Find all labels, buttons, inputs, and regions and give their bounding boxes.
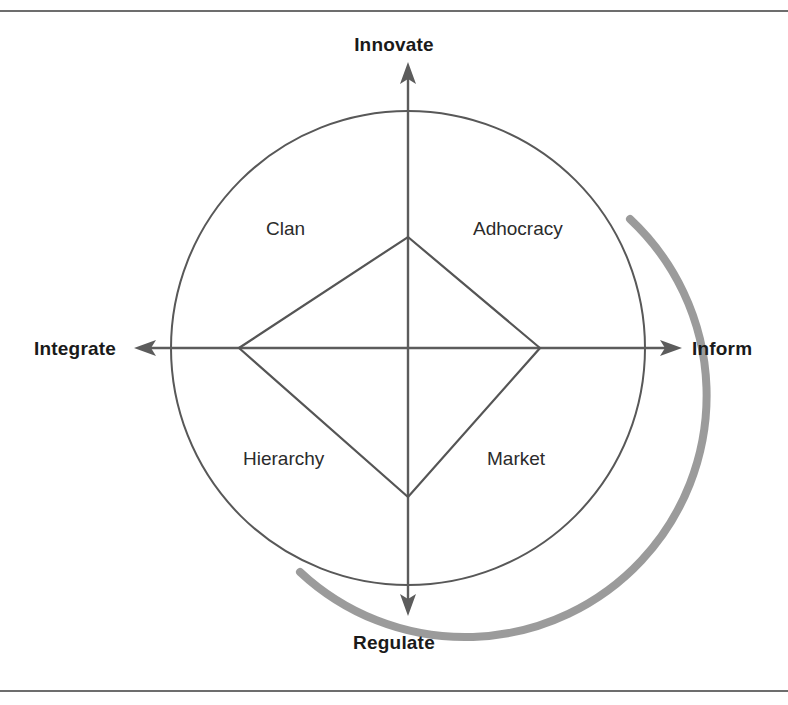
quadrant-label-hierarchy: Hierarchy (243, 448, 324, 470)
quadrant-label-adhocracy: Adhocracy (473, 218, 563, 240)
figure-container: Innovate Regulate Integrate Inform Clan … (0, 0, 788, 705)
quadrant-diagram-graphic (0, 0, 788, 705)
circle-shadow-arc (300, 219, 707, 637)
quadrant-label-market: Market (487, 448, 545, 470)
axis-label-integrate: Integrate (34, 338, 116, 360)
axis-label-innovate: Innovate (0, 34, 788, 56)
quadrant-label-clan: Clan (266, 218, 305, 240)
axis-label-inform: Inform (692, 338, 752, 360)
axis-label-regulate: Regulate (0, 632, 788, 654)
